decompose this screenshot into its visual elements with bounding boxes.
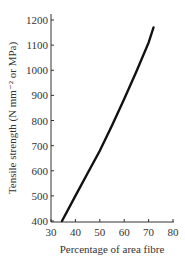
x-tick-label: 40 [70,226,82,238]
data-line [62,28,154,222]
x-tick-label: 60 [119,226,131,238]
y-tick-label: 1100 [26,39,48,51]
x-tick-label: 30 [46,226,58,238]
y-tick-label: 600 [32,165,49,177]
y-axis-ticks: 400500600700800900100011001200 [26,14,54,227]
x-tick-label: 80 [168,226,180,238]
y-tick-label: 1200 [26,14,49,26]
y-tick-label: 700 [32,140,49,152]
y-tick-label: 500 [32,190,49,202]
y-tick-label: 900 [32,89,49,101]
y-tick-label: 1000 [26,64,49,76]
y-tick-label: 800 [32,115,49,127]
x-tick-label: 70 [143,226,155,238]
y-axis-title: Tensile strength (N mm⁻² or MPa) [6,42,19,195]
x-axis-title: Percentage of area fibre [60,243,165,255]
x-tick-label: 50 [94,226,106,238]
chart: 400500600700800900100011001200 304050607… [0,0,185,264]
